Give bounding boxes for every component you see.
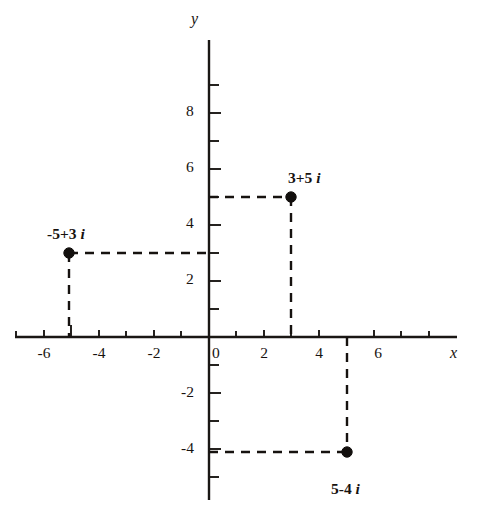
imaginary-unit-icon-1: i — [80, 225, 84, 242]
point-label-imag-1: 3 — [69, 225, 77, 242]
complex-plane-figure: y x -6 -4 -2 0 2 4 6 8 6 4 2 -2 -4 -5+3 … — [0, 0, 478, 508]
data-point-5-minus-4i[interactable] — [342, 447, 352, 457]
y-axis-label: y — [191, 11, 198, 27]
x-tick-label-4: 4 — [315, 345, 323, 361]
x-tick-label-minus4: -4 — [93, 345, 106, 361]
x-tick-label-minus6: -6 — [38, 345, 51, 361]
imaginary-unit-icon-3: i — [356, 480, 360, 497]
x-axis-label: x — [450, 345, 457, 361]
y-tick-label-6: 6 — [186, 159, 194, 175]
x-axis-minor-ticks — [16, 325, 429, 337]
x-tick-label-2: 2 — [260, 345, 268, 361]
y-tick-label-8: 8 — [186, 103, 194, 119]
origin-label-0: 0 — [212, 345, 220, 361]
point-label-text-2: 3 — [288, 169, 296, 186]
data-point-3-plus-5i[interactable] — [286, 192, 296, 202]
imaginary-unit-icon-2: i — [316, 169, 320, 186]
point-label-imag-3: 4 — [344, 480, 352, 497]
y-axis-major-ticks — [209, 113, 221, 449]
y-tick-label-4: 4 — [186, 215, 194, 231]
point-label-text-3: 5 — [331, 480, 339, 497]
point-label-minus5-plus-3i: -5+3 i — [47, 226, 85, 242]
point-label-sign-1: + — [60, 225, 69, 242]
point-label-text-1: -5 — [47, 225, 60, 242]
data-point-minus5-plus-3i[interactable] — [64, 248, 74, 258]
point-label-imag-2: 5 — [305, 169, 313, 186]
point-label-5-minus-4i: 5-4 i — [331, 481, 360, 497]
x-tick-label-6: 6 — [374, 345, 382, 361]
y-tick-label-minus4: -4 — [181, 440, 194, 456]
point-label-sign-2: + — [296, 169, 305, 186]
y-tick-label-2: 2 — [186, 271, 194, 287]
coordinate-plane-svg — [0, 0, 478, 508]
y-tick-label-minus2: -2 — [181, 384, 194, 400]
x-tick-label-minus2: -2 — [148, 345, 161, 361]
point-label-3-plus-5i: 3+5 i — [288, 170, 321, 186]
